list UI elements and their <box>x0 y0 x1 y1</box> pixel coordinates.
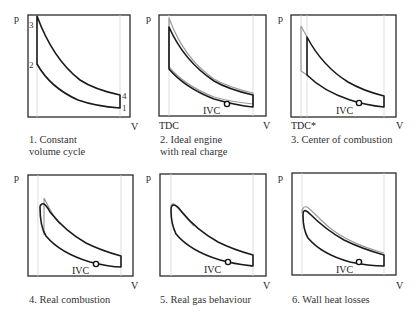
point-label-1: 1 <box>122 103 127 113</box>
caption-panel-2: 2. Ideal engine with real charge <box>160 134 227 158</box>
panel-5-real-gas-behaviour: p V IVC <box>146 172 271 291</box>
ivc-label: IVC <box>204 264 222 275</box>
v-axis-label: V <box>396 120 404 131</box>
caption-panel-1: 1. Constant volume cycle <box>29 134 85 158</box>
point-label-4: 4 <box>122 91 127 101</box>
caption-line-1: 1. Constant <box>29 134 85 146</box>
v-axis-label: V <box>131 121 139 132</box>
cycle-curve <box>303 211 384 266</box>
caption-line-1: 5. Real gas behaviour <box>160 294 251 306</box>
previous-cycle-curve <box>301 26 307 75</box>
p-axis-label: p <box>146 172 151 183</box>
caption-line-1: 3. Center of combustion <box>291 134 392 146</box>
ivc-marker <box>356 259 361 264</box>
cycle-curve <box>307 37 384 107</box>
caption-line-2: volume cycle <box>29 146 85 158</box>
caption-panel-5: 5. Real gas behaviour <box>160 294 251 306</box>
caption-line-1: 2. Ideal engine <box>160 134 227 146</box>
caption-line-1: 6. Wall heat losses <box>292 294 370 306</box>
ivc-marker <box>224 101 229 106</box>
pv-diagram-grid: p V 1 2 3 4 p V IVC TDC p V IVC TDC* <box>0 0 416 316</box>
cycle-curve <box>37 16 120 108</box>
ivc-label: IVC <box>336 105 354 116</box>
tdc-label: TDC <box>159 120 179 131</box>
cycle-curve <box>171 205 253 266</box>
ivc-label: IVC <box>72 265 90 276</box>
caption-line-2: with real charge <box>160 146 227 158</box>
point-label-3: 3 <box>29 20 34 30</box>
v-axis-label: V <box>263 280 271 291</box>
plot-frame <box>159 15 266 116</box>
previous-cycle-curve <box>44 198 60 235</box>
previous-cycle-curve <box>302 207 384 253</box>
ivc-label: IVC <box>336 264 354 275</box>
panel-3-center-of-combustion: p V IVC TDC* <box>278 13 404 131</box>
tdc-star-label: TDC* <box>291 120 316 131</box>
panel-4-real-combustion: p V IVC <box>14 172 139 291</box>
plot-frame <box>160 174 266 276</box>
caption-panel-6: 6. Wall heat losses <box>292 294 370 306</box>
p-axis-label: p <box>278 172 283 183</box>
ivc-marker <box>225 259 230 264</box>
panel-6-wall-heat-losses: p V IVC <box>278 172 404 291</box>
panel-1-constant-volume-cycle: p V 1 2 3 4 <box>14 13 139 132</box>
cycle-curve <box>169 27 253 107</box>
point-label-2: 2 <box>29 60 34 70</box>
p-axis-label: p <box>14 172 19 183</box>
caption-panel-4: 4. Real combustion <box>29 294 110 306</box>
ivc-label: IVC <box>203 105 221 116</box>
v-axis-label: V <box>131 280 139 291</box>
previous-cycle-curve <box>171 204 194 226</box>
panel-2-ideal-engine-real-charge: p V IVC TDC <box>146 13 271 131</box>
v-axis-label: V <box>263 120 271 131</box>
ivc-marker <box>93 261 98 266</box>
p-axis-label: p <box>14 13 19 24</box>
ivc-marker <box>356 100 361 105</box>
p-axis-label: p <box>146 13 151 24</box>
v-axis-label: V <box>396 280 404 291</box>
p-axis-label: p <box>278 13 283 24</box>
caption-line-1: 4. Real combustion <box>29 294 110 306</box>
caption-panel-3: 3. Center of combustion <box>291 134 392 146</box>
